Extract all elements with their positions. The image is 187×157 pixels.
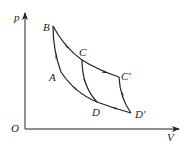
pv-diagram: p V O B C C' A D D' — [0, 0, 187, 157]
curve-c-cprime — [82, 60, 119, 77]
point-dprime-label: D' — [134, 108, 146, 120]
p-axis-label: p — [13, 11, 20, 23]
point-d-label: D — [91, 106, 100, 118]
curve-b-c — [53, 26, 82, 60]
curve-cprime-dprime — [119, 77, 131, 113]
origin-label: O — [11, 122, 19, 134]
point-b-label: B — [43, 21, 50, 33]
v-axis-label: V — [167, 131, 175, 143]
point-a-label: A — [48, 71, 56, 83]
point-cprime-label: C' — [121, 70, 131, 82]
curve-d-a — [61, 72, 97, 102]
point-c-label: C — [79, 46, 87, 58]
